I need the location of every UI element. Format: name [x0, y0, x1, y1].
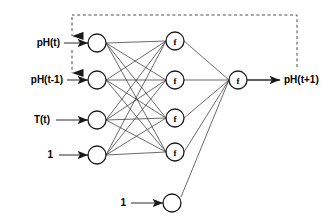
- input-label-bias: 1: [47, 150, 53, 160]
- output-bias-label: 1: [120, 198, 126, 208]
- output-layer-node: f: [229, 71, 247, 89]
- input-label-ph-t-1: pH(t-1): [31, 75, 63, 85]
- input-node-ph-t: [88, 34, 106, 52]
- input-node-ph-t-1: [88, 71, 106, 89]
- hidden-to-output-connections: [181, 41, 229, 197]
- hidden-layer-nodes: f f f f: [166, 32, 184, 161]
- input-layer-nodes: [88, 34, 106, 164]
- network-graphics: f f f f f: [0, 0, 333, 221]
- input-node-temp-t: [88, 111, 106, 129]
- neural-network-diagram: f f f f f pH(t) pH(t-1) T(t) 1 1 pH(t+1): [0, 0, 333, 221]
- input-to-hidden-connections: [106, 41, 166, 155]
- input-node-bias: [88, 146, 106, 164]
- output-bias-node: [163, 194, 181, 212]
- input-label-temp-t: T(t): [34, 115, 50, 125]
- output-label-ph-t-plus-1: pH(t+1): [284, 75, 319, 85]
- input-label-ph-t: pH(t): [37, 38, 60, 48]
